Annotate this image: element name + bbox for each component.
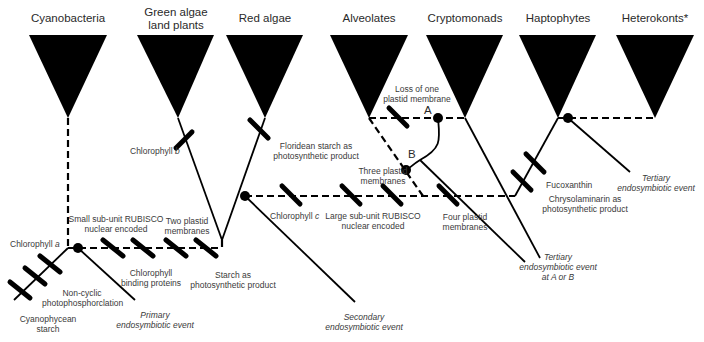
trait-chlorophyll-b-text: Chlorophyll <box>130 146 175 156</box>
event-secondary: Secondary endosymbiotic event <box>324 312 404 332</box>
trait-loss-membrane-line2: plastid membrane <box>382 94 452 104</box>
event-primary-line1: Primary <box>115 310 195 320</box>
node-secondary <box>240 191 250 201</box>
trait-chlorophyll-binding: Chlorophyll binding proteins <box>118 268 184 288</box>
trait-small-rubisco-line1: Small sub-unit RUBISCO <box>68 214 164 224</box>
event-tertiary-ab: Tertiary endosymbiotic event at A or B <box>518 252 598 282</box>
trait-large-rubisco: Large sub-unit RUBISCO nuclear encoded <box>325 211 421 231</box>
trait-two-plastid-line1: Two plastid <box>162 216 212 226</box>
event-tertiary-ab-line3: at A or B <box>518 272 598 282</box>
trait-cyanophycean-line2: starch <box>18 324 78 334</box>
taxon-label-heterokonts: Heterokonts* <box>605 12 704 25</box>
trait-non-cyclic: Non-cyclic photophosphorclation <box>42 288 122 308</box>
trait-large-rubisco-line2: nuclear encoded <box>325 221 421 231</box>
trait-chlorophyll-a-text: Chlorophyll <box>10 239 55 249</box>
clade-triangle-alveolates <box>330 35 408 118</box>
trait-fucoxanthin: Fucoxanthin <box>546 180 592 190</box>
event-secondary-line2: endosymbiotic event <box>324 322 404 332</box>
trait-chlorophyll-a: Chlorophyll a <box>10 239 60 249</box>
trait-chrysolaminarin: Chrysolaminarin as photosynthetic produc… <box>535 194 635 214</box>
taxon-label-haptophytes: Haptophytes <box>508 12 608 25</box>
trait-loss-membrane: Loss of one plastid membrane <box>382 84 452 104</box>
clade-triangle-haptophytes <box>519 35 596 118</box>
trait-two-plastid-line2: membranes <box>162 226 212 236</box>
clade-triangle-red-algae <box>226 35 303 118</box>
trait-two-plastid: Two plastid membranes <box>162 216 212 236</box>
trait-chrysolaminarin-line2: photosynthetic product <box>535 204 635 214</box>
trait-cyanophycean-line1: Cyanophycean <box>18 314 78 324</box>
trait-starch: Starch as photosynthetic product <box>185 270 281 290</box>
trait-starch-line1: Starch as <box>185 270 281 280</box>
taxon-label-cyanobacteria: Cyanobacteria <box>18 12 118 25</box>
trait-chlorophyll-b: Chlorophyll b <box>130 146 180 156</box>
event-tertiary: Tertiary endosymbiotic event <box>616 173 696 193</box>
taxon-label-cryptomonads: Cryptomonads <box>415 12 515 25</box>
trait-small-rubisco-line2: nuclear encoded <box>68 224 164 234</box>
clade-triangle-heterokonts <box>616 35 694 118</box>
trait-three-plastid-line2: membranes <box>355 176 411 186</box>
trait-non-cyclic-line1: Non-cyclic <box>42 288 122 298</box>
trait-floridean-line1: Floridean starch as <box>267 141 365 151</box>
trait-chlorophyll-c-text: Chlorophyll <box>270 211 315 221</box>
trait-four-plastid-line2: membranes <box>437 222 493 232</box>
trait-floridean-starch: Floridean starch as photosynthetic produ… <box>267 141 365 161</box>
point-b-label: B <box>408 148 416 161</box>
taxon-label-green-algae: Green algae land plants <box>126 6 226 32</box>
trait-three-plastid: Three plastid membranes <box>355 166 411 186</box>
trait-chrysolaminarin-line1: Chrysolaminarin as <box>535 194 635 204</box>
trait-chlorophyll-c-letter: c <box>315 211 319 221</box>
trait-small-rubisco: Small sub-unit RUBISCO nuclear encoded <box>68 214 164 234</box>
trait-three-plastid-line1: Three plastid <box>355 166 411 176</box>
event-tertiary-ab-line1: Tertiary <box>518 252 598 262</box>
phylogenetic-diagram: Cyanobacteria Green algae land plants Re… <box>0 0 704 342</box>
taxon-label-alveolates: Alveolates <box>319 12 419 25</box>
trait-large-rubisco-line1: Large sub-unit RUBISCO <box>325 211 421 221</box>
clade-triangle-cryptomonads <box>426 35 503 118</box>
event-tertiary-line1: Tertiary <box>616 173 696 183</box>
taxon-label-green-algae-line1: Green algae <box>126 6 226 19</box>
event-primary-line2: endosymbiotic event <box>115 320 195 330</box>
event-primary: Primary endosymbiotic event <box>115 310 195 330</box>
trait-four-plastid: Four plastid membranes <box>437 212 493 232</box>
node-a <box>433 113 443 123</box>
clade-triangle-green-algae <box>137 35 214 118</box>
taxon-label-red-algae: Red algae <box>215 12 315 25</box>
trait-loss-membrane-line1: Loss of one <box>382 84 452 94</box>
trait-cyanophycean-starch: Cyanophycean starch <box>18 314 78 334</box>
node-primary <box>73 243 83 253</box>
trait-four-plastid-line1: Four plastid <box>437 212 493 222</box>
trait-floridean-line2: photosynthetic product <box>267 151 365 161</box>
trait-non-cyclic-line2: photophosphorclation <box>42 298 122 308</box>
trait-starch-line2: photosynthetic product <box>185 280 281 290</box>
trait-chlorophyll-b-letter: b <box>175 146 180 156</box>
trait-chlorophyll-c: Chlorophyll c <box>270 211 319 221</box>
clade-triangle-cyanobacteria <box>29 35 107 118</box>
trait-chl-binding-line2: binding proteins <box>118 278 184 288</box>
event-tertiary-line2: endosymbiotic event <box>616 183 696 193</box>
point-a-label: A <box>424 104 432 117</box>
trait-chl-binding-line1: Chlorophyll <box>118 268 184 278</box>
event-secondary-line1: Secondary <box>324 312 404 322</box>
event-tertiary-ab-line2: endosymbiotic event <box>518 262 598 272</box>
node-tertiary <box>563 113 573 123</box>
taxon-label-green-algae-line2: land plants <box>126 19 226 32</box>
trait-chlorophyll-a-letter: a <box>55 239 60 249</box>
